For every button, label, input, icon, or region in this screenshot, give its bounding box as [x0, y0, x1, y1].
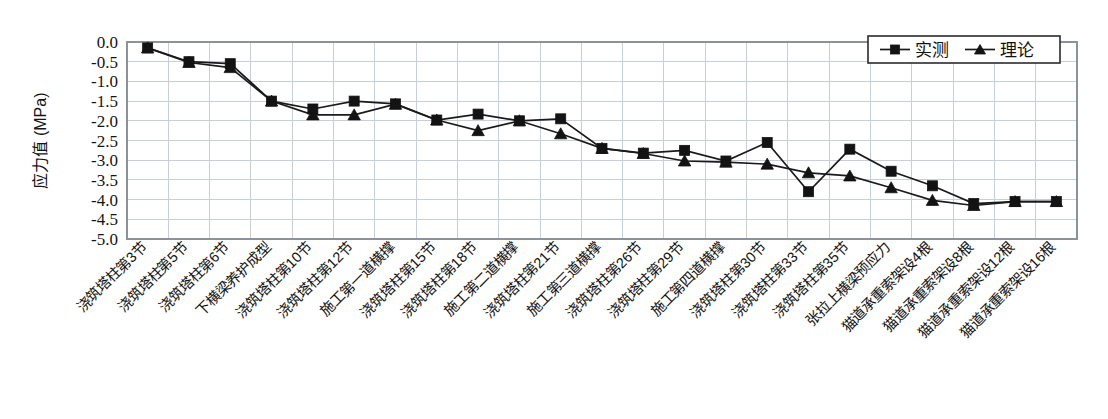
chart-page: 0.0-0.5-1.0-1.5-2.0-2.5-3.0-3.5-4.0-4.5-…: [0, 0, 1108, 419]
x-axis-tick-label: 浇筑塔柱第35节: [769, 238, 852, 321]
y-axis-tick-label: -1.0: [91, 72, 118, 91]
data-point-marker-square: [804, 187, 814, 197]
data-point-marker-square: [680, 145, 690, 155]
x-axis-tick-label: 浇筑塔柱第26节: [563, 238, 646, 321]
x-axis-tick-label: 浇筑塔柱第29节: [604, 238, 687, 321]
y-axis-title: 应力值 (MPa): [31, 93, 49, 189]
y-axis-tick-label: -1.5: [91, 92, 118, 111]
data-point-marker-square: [886, 166, 896, 176]
data-point-marker-square: [473, 109, 483, 119]
data-point-marker-square: [845, 144, 855, 154]
data-point-marker-square: [762, 137, 772, 147]
x-axis-tick-label: 施工第二道横撑: [440, 238, 521, 319]
chart-legend: 实测理论: [868, 36, 1060, 63]
data-point-marker-square: [927, 181, 937, 191]
x-axis-tick-label: 施工第三道横撑: [523, 238, 604, 319]
x-axis-tick-label: 浇筑塔柱第3节: [73, 238, 150, 315]
x-axis-tick-label: 施工第一道横撑: [316, 238, 397, 319]
data-series-layer: [141, 42, 1062, 211]
y-axis-tick-label: -5.0: [91, 230, 118, 249]
gridlines: [127, 42, 1077, 239]
x-axis-tick-label: 浇筑塔柱第6节: [155, 238, 232, 315]
legend-label-实测: 实测: [915, 41, 949, 60]
y-axis-tick-label: -4.5: [91, 210, 118, 229]
x-axis-tick-label: 施工第四道横撑: [647, 238, 728, 319]
y-axis-tick-label: -0.5: [91, 53, 118, 72]
legend-marker-square: [891, 45, 900, 54]
data-point-marker-square: [556, 114, 566, 124]
x-axis-tick-label: 浇筑塔柱第12节: [273, 238, 356, 321]
y-axis-title-text: 应力值 (MPa): [31, 93, 49, 189]
x-axis-tick-label: 浇筑塔柱第21节: [480, 238, 563, 321]
y-axis-tick-label: -3.5: [91, 171, 118, 190]
x-axis-tick-label: 浇筑塔柱第18节: [397, 238, 480, 321]
y-axis-tick-label: -3.0: [91, 151, 118, 170]
x-axis-tick-label: 下横梁养护成型: [193, 239, 274, 320]
legend-label-理论: 理论: [1000, 41, 1034, 60]
y-axis-tick-labels: 0.0-0.5-1.0-1.5-2.0-2.5-3.0-3.5-4.0-4.5-…: [91, 33, 118, 249]
stress-value-line-chart: 0.0-0.5-1.0-1.5-2.0-2.5-3.0-3.5-4.0-4.5-…: [0, 0, 1108, 419]
x-axis-tick-label: 浇筑塔柱第30节: [687, 238, 770, 321]
y-axis-tick-label: 0.0: [97, 33, 118, 52]
y-axis-tick-label: -2.5: [91, 132, 118, 151]
x-axis-tick-label: 浇筑塔柱第5节: [114, 238, 191, 315]
data-point-marker-square: [349, 96, 359, 106]
x-axis-tick-label: 浇筑塔柱第10节: [232, 238, 315, 321]
x-axis-tick-labels: 浇筑塔柱第3节浇筑塔柱第5节浇筑塔柱第6节下横梁养护成型浇筑塔柱第10节浇筑塔柱…: [73, 238, 1059, 341]
x-axis-tick-label: 浇筑塔柱第33节: [728, 238, 811, 321]
x-axis-tick-label: 浇筑塔柱第15节: [356, 238, 439, 321]
y-axis-tick-label: -4.0: [91, 191, 118, 210]
y-axis-tick-label: -2.0: [91, 112, 118, 131]
